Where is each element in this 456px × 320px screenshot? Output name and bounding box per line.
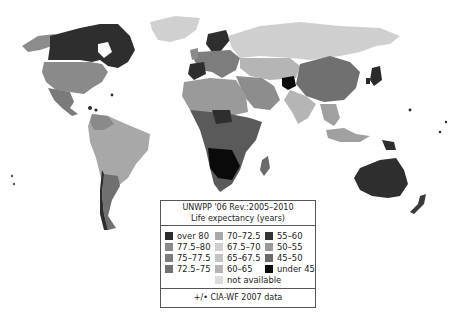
region-afghanistan — [282, 76, 296, 90]
region-japan — [370, 66, 382, 86]
region-iberia — [188, 62, 206, 80]
region-new-zealand — [410, 194, 426, 214]
swatch — [215, 265, 223, 273]
region-greenland — [150, 16, 200, 42]
legend-item: over 80 — [165, 230, 211, 241]
region-indonesia — [326, 128, 370, 142]
swatch — [265, 265, 273, 273]
legend-body: over 80 77.5–80 75–77.5 72.5–75 70–72.5 … — [161, 226, 315, 288]
legend-item: under 45 — [265, 263, 315, 274]
region-korea — [366, 78, 370, 84]
region-china — [296, 56, 360, 102]
region-uk — [190, 48, 198, 60]
swatch — [215, 276, 223, 284]
legend-title-line2: Life expectancy (years) — [161, 214, 315, 225]
swatch — [165, 265, 173, 273]
region-southeast-asia — [320, 104, 340, 126]
region-scandinavia — [206, 30, 230, 52]
swatch — [165, 243, 173, 251]
legend-item: 75–77.5 — [165, 252, 211, 263]
swatch — [265, 243, 273, 251]
legend-item: 50–55 — [265, 241, 315, 252]
legend-item: 72.5–75 — [165, 263, 211, 274]
legend-item: 77.5–80 — [165, 241, 211, 252]
swatch — [265, 232, 273, 240]
swatch — [165, 232, 173, 240]
swatch — [265, 254, 273, 262]
legend-item: 45–50 — [265, 252, 315, 263]
swatch — [165, 254, 173, 262]
legend-item: 55–60 — [265, 230, 315, 241]
region-russia — [228, 22, 400, 60]
swatch — [215, 243, 223, 251]
swatch — [215, 254, 223, 262]
region-madagascar — [260, 156, 270, 176]
swatch — [215, 232, 223, 240]
region-canada — [48, 24, 135, 68]
legend-column-1: over 80 77.5–80 75–77.5 72.5–75 — [165, 230, 211, 274]
region-australia — [354, 158, 408, 198]
region-papua — [382, 140, 396, 150]
legend-title-line1: UNWPP '06 Rev.:2005–2010 — [161, 203, 315, 214]
legend: UNWPP '06 Rev.:2005–2010 Life expectancy… — [160, 200, 316, 308]
legend-header: UNWPP '06 Rev.:2005–2010 Life expectancy… — [161, 201, 315, 226]
legend-footer: +/• CIA-WF 2007 data — [161, 288, 315, 307]
legend-column-3: 55–60 50–55 45–50 under 45 — [265, 230, 315, 274]
legend-item: not available — [215, 274, 281, 285]
